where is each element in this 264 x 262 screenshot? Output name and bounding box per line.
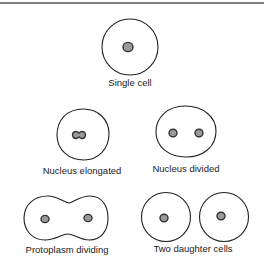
nucleus-left xyxy=(160,214,168,222)
stage-label: Two daughter cells xyxy=(153,243,232,254)
cell-membrane xyxy=(156,106,216,157)
stage-label: Nucleus divided xyxy=(152,163,219,174)
nucleus-left xyxy=(41,215,49,222)
stage-nucleus-elongated: Nucleus elongated xyxy=(43,109,122,176)
nucleus xyxy=(123,42,133,51)
stage-label: Nucleus elongated xyxy=(43,165,122,176)
stage-protoplasm-dividing: Protoplasm dividing xyxy=(24,196,108,255)
stage-two-daughter-cells: Two daughter cells xyxy=(142,193,249,255)
cell-division-diagram: Single cell Nucleus elongated Nucleus di… xyxy=(0,0,264,262)
nucleus-right xyxy=(84,214,92,221)
stage-label: Protoplasm dividing xyxy=(26,244,109,255)
nucleus-right xyxy=(195,129,203,137)
stage-label: Single cell xyxy=(108,77,151,88)
stage-nucleus-divided: Nucleus divided xyxy=(152,106,219,174)
stage-single-cell: Single cell xyxy=(102,19,158,88)
cell-membrane xyxy=(24,196,108,240)
nucleus-left xyxy=(169,129,177,137)
nucleus-right xyxy=(217,212,225,220)
elongated-nucleus xyxy=(73,132,86,139)
